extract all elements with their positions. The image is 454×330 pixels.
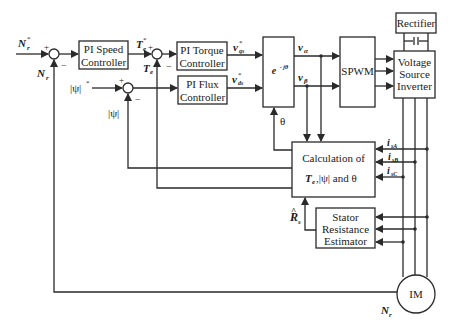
svg-text:qs: qs xyxy=(239,48,245,54)
svg-text:r: r xyxy=(46,74,49,82)
rectifier-block: Rectifier xyxy=(396,13,436,33)
svg-text:v: v xyxy=(298,41,303,53)
svg-text:sB: sB xyxy=(391,157,398,163)
svg-text:Calculation of: Calculation of xyxy=(302,152,365,164)
pi-torque-controller-block: PI Torque Controller xyxy=(177,42,227,70)
svg-text:−: − xyxy=(61,60,67,71)
svg-text:−: − xyxy=(135,94,141,105)
vd-reference-label: v ds * xyxy=(232,71,244,86)
svg-text:IM: IM xyxy=(409,288,423,300)
svg-text:|ψ|: |ψ| xyxy=(70,82,81,94)
svg-text:*: * xyxy=(239,39,243,47)
svg-text:+: + xyxy=(148,42,153,52)
svg-text:Rectifier: Rectifier xyxy=(397,17,436,29)
svg-text:,|ψ| and θ: ,|ψ| and θ xyxy=(316,172,357,184)
torque-reference-label: T e * xyxy=(136,36,147,53)
svg-text:Controller: Controller xyxy=(179,57,225,69)
svg-text:s: s xyxy=(297,218,301,226)
motor-speed-label: N r xyxy=(380,304,392,319)
svg-text:θ: θ xyxy=(280,115,285,127)
svg-text:e: e xyxy=(143,45,146,53)
flux-feedback-label: |ψ| xyxy=(108,107,119,119)
isC-label: i sC xyxy=(387,165,398,177)
svg-text:*: * xyxy=(238,71,242,79)
svg-text:Estimator: Estimator xyxy=(324,235,367,247)
torque-feedback-label: T e xyxy=(143,62,153,76)
svg-text:N: N xyxy=(36,67,46,79)
theta-label: θ xyxy=(280,115,285,127)
torque-sum-junction xyxy=(152,49,162,59)
isA-label: i sA xyxy=(387,137,397,149)
diagram-canvas: PI Speed Controller PI Torque Controller… xyxy=(0,0,454,330)
svg-text:Controller: Controller xyxy=(180,91,226,103)
speed-sum-junction xyxy=(49,49,59,59)
voltage-source-inverter-block: Voltage Source Inverter xyxy=(394,51,435,98)
svg-text:Inverter: Inverter xyxy=(397,80,432,92)
svg-text:*: * xyxy=(27,35,31,43)
svg-text:Voltage: Voltage xyxy=(398,56,432,68)
svg-text:SPWM: SPWM xyxy=(341,65,374,77)
stator-resistance-estimator-block: Stator Resistance Estimator xyxy=(316,208,375,248)
flux-reference-label: |ψ| * xyxy=(70,79,90,94)
svg-text:N: N xyxy=(17,37,27,49)
v-beta-label: v β xyxy=(298,71,308,85)
svg-text:e: e xyxy=(312,178,315,186)
svg-text:r: r xyxy=(27,44,30,52)
svg-text:ds: ds xyxy=(238,80,244,86)
svg-text:+: + xyxy=(119,75,124,85)
svg-text:−: − xyxy=(166,61,172,72)
induction-motor: IM xyxy=(397,275,435,313)
flux-sum-junction xyxy=(123,83,133,93)
svg-text:β: β xyxy=(303,77,308,85)
svg-text:Resistance: Resistance xyxy=(322,223,369,235)
pi-speed-controller-block: PI Speed Controller xyxy=(79,41,128,69)
svg-text:R: R xyxy=(289,210,298,224)
speed-feedback-label: N r xyxy=(36,67,49,82)
pi-flux-controller-block: PI Flux Controller xyxy=(178,76,227,104)
dc-link-capacitor xyxy=(404,33,428,51)
vq-reference-label: v qs * xyxy=(233,39,245,54)
svg-text:i: i xyxy=(387,165,390,176)
svg-text:PI Speed: PI Speed xyxy=(84,43,124,55)
svg-text:- jθ: - jθ xyxy=(280,64,289,70)
isB-label: i sB xyxy=(388,151,398,163)
svg-text:PI Torque: PI Torque xyxy=(180,44,223,56)
svg-text:i: i xyxy=(387,137,390,148)
svg-text:|ψ|: |ψ| xyxy=(108,107,119,119)
rs-hat-label: ^ R s xyxy=(289,206,301,226)
svg-text:v: v xyxy=(232,73,237,85)
svg-text:sC: sC xyxy=(390,171,398,177)
calculation-block: Calculation of T e ,|ψ| and θ xyxy=(292,142,375,197)
speed-reference-label: N r * xyxy=(17,35,31,52)
svg-text:*: * xyxy=(143,36,147,44)
spwm-block: SPWM xyxy=(340,37,375,107)
svg-text:v: v xyxy=(233,41,238,53)
svg-text:r: r xyxy=(389,311,392,319)
svg-text:i: i xyxy=(388,151,391,162)
svg-text:e: e xyxy=(150,68,153,76)
svg-text:PI Flux: PI Flux xyxy=(186,78,219,90)
svg-text:Stator: Stator xyxy=(332,211,359,223)
v-alpha-label: v α xyxy=(298,41,308,55)
svg-text:sA: sA xyxy=(390,143,397,149)
svg-text:v: v xyxy=(298,71,303,83)
svg-text:Source: Source xyxy=(399,68,430,80)
svg-text:α: α xyxy=(304,47,308,55)
svg-text:+: + xyxy=(44,42,49,52)
svg-text:*: * xyxy=(86,79,90,87)
svg-text:Controller: Controller xyxy=(81,56,127,68)
inverse-park-transform-block: e - jθ xyxy=(263,37,294,107)
svg-text:e: e xyxy=(272,65,277,76)
